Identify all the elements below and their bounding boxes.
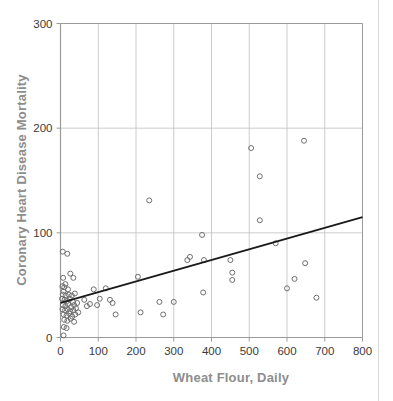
scatter-plot-figure: 0100200300400500600700800 0100200300 Whe… [0, 0, 393, 401]
x-tick-label: 500 [240, 345, 259, 357]
x-axis-tick-labels: 0100200300400500600700800 [57, 345, 372, 357]
x-tick-label: 0 [57, 345, 63, 357]
y-axis-title: Coronary Heart Disease Mortality [14, 74, 29, 286]
x-tick-label: 100 [89, 345, 108, 357]
y-tick-label: 300 [33, 18, 52, 30]
x-tick-label: 800 [353, 345, 372, 357]
x-tick-label: 200 [126, 345, 145, 357]
y-tick-label: 200 [33, 122, 52, 134]
chart-background [0, 0, 393, 401]
chart-canvas: 0100200300400500600700800 0100200300 Whe… [0, 0, 393, 401]
x-tick-label: 300 [164, 345, 183, 357]
x-tick-label: 400 [202, 345, 221, 357]
x-tick-label: 700 [315, 345, 334, 357]
y-tick-label: 0 [46, 332, 52, 344]
page-edge-line [378, 0, 379, 401]
x-tick-label: 600 [277, 345, 296, 357]
y-tick-label: 100 [33, 227, 52, 239]
x-axis-title: Wheat Flour, Daily [173, 370, 290, 385]
